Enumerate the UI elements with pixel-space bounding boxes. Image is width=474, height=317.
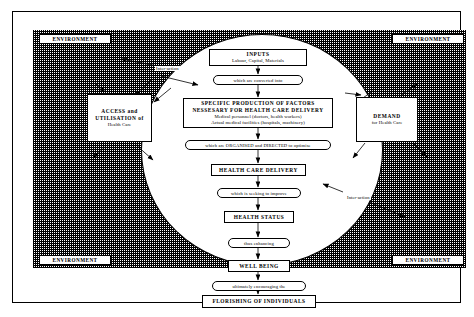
node-access-detail: Health Care [108, 122, 132, 128]
node-production: SPECIFIC PRODUCTION OF FACTORS NESSESARY… [183, 98, 333, 128]
node-florishing-heading: FLORISHING OF INDIVIDUALS [212, 298, 305, 305]
node-health-status: HEALTH STATUS [224, 211, 294, 223]
connector-ultimately: ultimately encouraging the [212, 281, 306, 291]
node-access-heading-line1: ACCESS and [101, 108, 137, 115]
node-production-detail-line2: Actual medical facilities (hospitals, ma… [211, 120, 305, 126]
environment-label-top-left: ENVIRONMENT [39, 34, 111, 44]
connector-enhancing: thus enhancing [228, 238, 290, 248]
interaction-label-left: Inter-action [155, 66, 180, 71]
node-health-care-delivery-heading: HEALTH CARE DELIVERY [219, 167, 298, 174]
node-demand-heading: DEMAND [373, 113, 400, 120]
node-production-heading-line2: NESSESARY FOR HEALTH CARE DELIVERY [192, 107, 323, 114]
environment-label-bottom-right: ENVIRONMENT [392, 255, 464, 265]
node-florishing-of-individuals: FLORISHING OF INDIVIDUALS [202, 295, 316, 308]
node-inputs-detail: Labour, Capital, Materials [232, 58, 284, 64]
connector-improve: which is seeking to improve [217, 188, 301, 198]
node-well-being-heading: WELL BEING [239, 263, 279, 270]
node-well-being: WELL BEING [228, 260, 290, 272]
node-access-utilisation: ACCESS and UTILISATION of Health Care [87, 94, 152, 142]
node-health-care-delivery: HEALTH CARE DELIVERY [211, 164, 306, 176]
connector-organised: which are ORGANISED and DIRECTED to opti… [185, 140, 331, 150]
outer-frame: ENVIRONMENT ENVIRONMENT ENVIRONMENT ENVI… [12, 11, 461, 303]
interaction-label-right: Inter-action [346, 195, 371, 200]
environment-label-bottom-left: ENVIRONMENT [39, 255, 111, 265]
connector-converted: which are converted into [213, 75, 303, 85]
diagram-canvas: ENVIRONMENT ENVIRONMENT ENVIRONMENT ENVI… [0, 0, 474, 317]
node-inputs-heading: INPUTS [247, 51, 270, 58]
node-health-status-heading: HEALTH STATUS [234, 214, 285, 221]
node-access-heading-line2: UTILISATION of [95, 115, 143, 122]
environment-label-top-right: ENVIRONMENT [392, 34, 464, 44]
node-demand-detail: for Health Care [372, 120, 403, 126]
node-demand: DEMAND for Health Care [356, 97, 418, 142]
node-production-heading-line1: SPECIFIC PRODUCTION OF FACTORS [201, 100, 315, 107]
node-inputs: INPUTS Labour, Capital, Materials [209, 49, 307, 66]
